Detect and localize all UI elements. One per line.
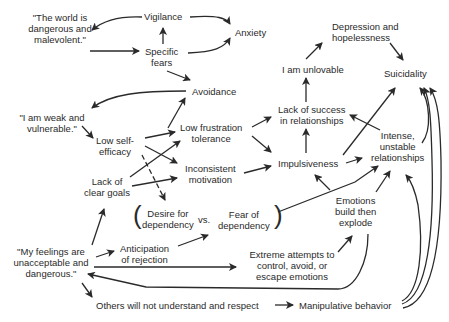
node-suicidality: Suicidality [384, 68, 427, 79]
close-paren: ) [274, 202, 283, 228]
arrow-goals-to-frustration [130, 141, 180, 177]
node-weak-vulnerable: "I am weak and vulnerable." [12, 112, 92, 134]
arrow-manipulative-to-intense [402, 175, 421, 301]
node-avoidance: Avoidance [192, 86, 236, 97]
arrow-intense-to-success [350, 115, 380, 130]
arrow-selfefficacy-to-frustration [145, 132, 175, 138]
diagram-canvas: "The world is dangerous and malevolent."… [0, 0, 449, 322]
arrow-feelings-to-anticipation [96, 251, 114, 257]
node-feelings-unacceptable: "My feelings are unacceptable and danger… [6, 246, 96, 279]
node-lack-clear-goals: Lack of clear goals [79, 176, 135, 198]
node-vs: vs. [198, 214, 210, 225]
arrow-avoidance-to-weak [92, 91, 186, 108]
node-extreme-attempts: Extreme attempts to control, avoid, or e… [242, 249, 342, 282]
node-world-dangerous: "The world is dangerous and malevolent." [20, 12, 100, 45]
node-inconsistent-motivation: Inconsistent motivation [185, 163, 236, 185]
node-others-not-understand: Others will not understand and respect [96, 300, 259, 311]
arrow-emotions-to-intense [376, 171, 390, 192]
node-vigilance: Vigilance [144, 11, 182, 22]
node-desire-dependency: Desire for dependency [142, 208, 194, 230]
node-low-frustration-tolerance: Low frustration tolerance [180, 122, 242, 144]
node-emotions-build: Emotions build then explode [335, 195, 376, 228]
arrow-motivation-to-impulsive [244, 166, 271, 173]
node-specific-fears: Specific fears [145, 46, 178, 68]
node-anticipation-rejection: Anticipation of rejection [120, 243, 169, 265]
arrow-manipulative-to-suicidality-1 [402, 88, 432, 304]
node-intense-unstable: Intense, unstable relationships [371, 130, 424, 163]
arrow-vigilance-to-anxiety [190, 16, 230, 24]
arrow-fears-to-anxiety [188, 38, 230, 53]
node-lack-success-relationships: Lack of success in relationships [278, 104, 346, 126]
node-impulsiveness: Impulsiveness [278, 158, 338, 169]
arrow-emotions-to-impulsive [315, 175, 330, 190]
node-i-am-unlovable: I am unlovable [282, 64, 344, 75]
arrow-impulsive-to-intense [346, 158, 362, 163]
node-depression-hopelessness: Depression and hopelessness [332, 21, 399, 43]
arrow-fears-to-avoidance [167, 71, 190, 80]
arrow-feelings-to-others [82, 283, 92, 297]
arrow-frustration-to-impulsive [252, 136, 271, 152]
arrow-selfefficacy-to-desire [142, 155, 165, 200]
arrow-feelings-to-goals [92, 209, 104, 245]
arrow-manipulative-to-suicidality-2 [403, 88, 441, 308]
arrow-depression-to-suicidality [390, 43, 403, 60]
node-low-self-efficacy: Low self- efficacy [96, 135, 134, 157]
node-fear-dependency: Fear of dependency [218, 209, 270, 231]
arrow-unlovable-to-depression [306, 43, 322, 59]
node-manipulative-behavior: Manipulative behavior [299, 300, 391, 311]
open-paren: ( [133, 202, 142, 228]
node-anxiety: Anxiety [235, 27, 266, 38]
arrow-frustration-to-success [252, 117, 271, 127]
arrow-anticipation-to-fear [178, 235, 208, 246]
